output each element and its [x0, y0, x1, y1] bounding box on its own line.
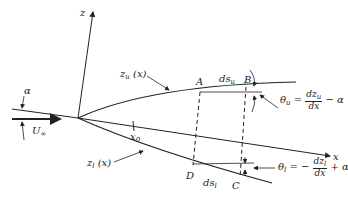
theta-l-equation: θl = − dzl dx + α — [278, 157, 348, 178]
lower-surface-label: zl (x) — [87, 158, 111, 170]
upper-surface-subscript: u — [125, 73, 130, 81]
ds-upper-label: dsu — [219, 74, 235, 86]
dashed-BC — [240, 87, 246, 178]
airfoil-geometry-diagram: z x α U∞ zu (x) zl (x) x0 A B C D dsu ds… — [0, 0, 348, 197]
point-A-label: A — [196, 77, 203, 87]
point-C-label: C — [232, 181, 240, 191]
theta-u-denominator: dx — [305, 102, 322, 111]
theta-u-subscript: u — [286, 99, 291, 107]
theta-l-num-text: dz — [314, 156, 325, 166]
ds-upper-subscript: u — [231, 78, 236, 86]
lower-surface-curve — [78, 118, 272, 183]
x-axis — [78, 118, 330, 156]
freestream-label: U∞ — [32, 126, 46, 138]
alpha-arrow-top — [22, 96, 24, 108]
ds-lower-symbol: ds — [203, 177, 215, 188]
theta-u-num-sub: u — [317, 93, 322, 101]
theta-u-tail: − α — [326, 94, 344, 105]
theta-l-num-sub: l — [324, 160, 326, 168]
z-axis — [78, 12, 93, 118]
point-D-label: D — [186, 171, 194, 181]
freestream-subscript: ∞ — [40, 130, 46, 138]
theta-u-arc-bottom — [252, 96, 255, 112]
alpha-arrow-bottom — [22, 122, 24, 140]
theta-l-tail: + α — [331, 161, 348, 172]
lower-surface-arg: (x) — [98, 157, 111, 168]
theta-u-num-text: dz — [306, 89, 317, 99]
theta-u-equation: θu = dzu dx − α — [280, 90, 344, 111]
alpha-reference-line — [12, 109, 78, 118]
dashed-AD — [193, 92, 200, 165]
x0-label: x0 — [130, 132, 140, 144]
upper-surface-label: zu (x) — [120, 69, 146, 81]
theta-l-subscript: l — [284, 166, 286, 174]
theta-l-denominator: dx — [313, 169, 328, 178]
theta-u-leader — [260, 95, 278, 108]
upper-surface-curve — [78, 82, 296, 118]
lower-surface-leader — [114, 151, 143, 162]
ds-lower-label: dsl — [203, 178, 217, 190]
z-axis-label: z — [80, 8, 85, 18]
lower-surface-subscript: l — [92, 162, 94, 170]
theta-u-equals: = — [294, 94, 302, 105]
ds-lower-subscript: l — [215, 182, 217, 190]
x0-subscript: 0 — [136, 136, 140, 144]
ds-upper-symbol: ds — [219, 73, 231, 84]
x0-tick — [133, 121, 134, 131]
alpha-label: α — [24, 86, 31, 96]
theta-l-equals: = − — [289, 161, 309, 172]
theta-l-fraction: dzl dx — [313, 157, 328, 178]
upper-surface-arg: (x) — [133, 68, 146, 79]
upper-surface-leader — [147, 76, 169, 90]
theta-u-fraction: dzu dx — [305, 90, 322, 111]
point-B-label: B — [244, 75, 251, 85]
